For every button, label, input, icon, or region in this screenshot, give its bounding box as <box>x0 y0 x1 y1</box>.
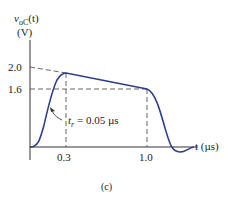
waveform-curve <box>30 73 194 152</box>
x-tick-1-0: 1.0 <box>139 151 153 163</box>
droop-extrapolation-line <box>30 67 66 73</box>
y-tick-2-0: 2.0 <box>8 61 22 73</box>
annotation-arrow <box>52 110 62 120</box>
y-tick-1-6: 1.6 <box>8 83 22 95</box>
y-axis-label: voC(t) <box>14 12 39 27</box>
arrowhead-icon <box>50 107 55 112</box>
rise-time-annotation: tr = 0.05 µs <box>68 114 119 129</box>
y-unit-label: (V) <box>17 26 32 38</box>
x-tick-0-3: 0.3 <box>57 151 71 163</box>
x-axis-label: t (µs) <box>195 140 219 152</box>
figure-caption: (c) <box>101 181 112 192</box>
chart-plot <box>0 0 226 206</box>
